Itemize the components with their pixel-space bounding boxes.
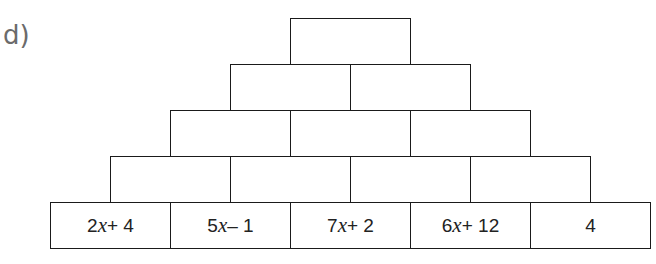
pyramid-cell[interactable] bbox=[410, 110, 531, 157]
pyramid-cell: 2x + 4 bbox=[50, 202, 171, 249]
pyramid-cell: 6x + 12 bbox=[410, 202, 531, 249]
pyramid-cell[interactable] bbox=[170, 110, 291, 157]
question-label: d) bbox=[3, 20, 30, 50]
pyramid-cell[interactable] bbox=[110, 156, 231, 203]
pyramid-cell: 7x + 2 bbox=[290, 202, 411, 249]
pyramid-cell[interactable] bbox=[350, 156, 471, 203]
pyramid-cell[interactable] bbox=[290, 18, 411, 65]
pyramid-cell[interactable] bbox=[470, 156, 591, 203]
pyramid-cell: 5x – 1 bbox=[170, 202, 291, 249]
pyramid-cell: 4 bbox=[530, 202, 651, 249]
pyramid-cell[interactable] bbox=[350, 64, 471, 111]
pyramid-cell[interactable] bbox=[230, 156, 351, 203]
pyramid-cell[interactable] bbox=[230, 64, 351, 111]
pyramid-cell[interactable] bbox=[290, 110, 411, 157]
